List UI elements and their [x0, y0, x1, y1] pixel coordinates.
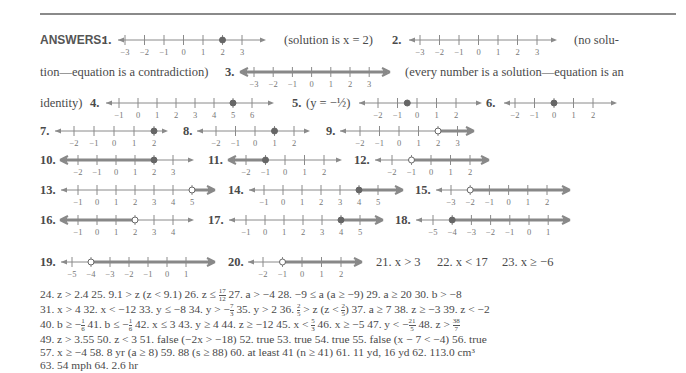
svg-text:0: 0 — [253, 138, 257, 148]
svg-text:−1: −1 — [259, 197, 268, 207]
top-rule — [40, 13, 676, 15]
answer-21: 21. x > 3 — [376, 255, 421, 269]
svg-text:4: 4 — [357, 197, 362, 207]
svg-text:−2: −2 — [269, 79, 278, 89]
item-label-20: 20. — [228, 255, 244, 269]
svg-text:3: 3 — [455, 138, 459, 148]
svg-text:−1: −1 — [485, 197, 494, 207]
item-label-2: 2. — [392, 33, 401, 47]
answer-line-40-48: 40. b ≥ −16 41. b ≤ −16 42. x ≤ 3 43. y … — [40, 318, 490, 333]
fraction-38-7: 387 — [453, 318, 460, 333]
item-label-16: 16. — [40, 213, 56, 227]
svg-text:1: 1 — [448, 167, 452, 177]
svg-text:1: 1 — [155, 110, 159, 120]
item-label-11: 11. — [208, 153, 223, 167]
svg-text:−1: −1 — [92, 167, 101, 177]
answer-2-note: (no solu- — [574, 33, 619, 47]
svg-text:0: 0 — [95, 197, 99, 207]
svg-text:5: 5 — [358, 227, 362, 237]
item-label-3: 3. — [225, 65, 234, 79]
svg-text:2: 2 — [319, 197, 323, 207]
svg-text:0: 0 — [112, 138, 116, 148]
svg-text:3: 3 — [152, 197, 156, 207]
item-label-4: 4. — [90, 96, 99, 110]
item-label-7: 7. — [40, 124, 49, 138]
svg-text:−4: −4 — [86, 269, 96, 279]
svg-text:1: 1 — [282, 227, 286, 237]
svg-text:3: 3 — [367, 79, 371, 89]
svg-text:−2: −2 — [211, 138, 220, 148]
number-line-8: −2−1012 — [196, 125, 311, 147]
svg-text:−1: −1 — [73, 197, 82, 207]
svg-text:1: 1 — [434, 110, 438, 120]
svg-text:1: 1 — [201, 47, 205, 57]
svg-text:0: 0 — [506, 197, 510, 207]
svg-text:−5: −5 — [67, 269, 76, 279]
svg-text:0: 0 — [429, 167, 433, 177]
svg-text:−5: −5 — [428, 227, 437, 237]
svg-text:3: 3 — [193, 110, 197, 120]
svg-text:5: 5 — [231, 110, 235, 120]
svg-text:−3: −3 — [446, 197, 455, 207]
svg-text:0: 0 — [397, 138, 401, 148]
svg-text:−1: −1 — [393, 110, 402, 120]
svg-text:−1: −1 — [89, 138, 98, 148]
svg-text:−1: −1 — [407, 167, 416, 177]
svg-text:−1: −1 — [261, 167, 270, 177]
number-line-17: −1012345 — [228, 214, 383, 236]
svg-text:2: 2 — [133, 197, 137, 207]
svg-text:6: 6 — [250, 110, 254, 120]
svg-text:−3: −3 — [120, 47, 129, 57]
svg-text:−2: −2 — [258, 269, 267, 279]
svg-text:2: 2 — [133, 227, 137, 237]
svg-text:−1: −1 — [114, 110, 123, 120]
svg-text:2: 2 — [515, 47, 519, 57]
svg-text:−2: −2 — [355, 138, 364, 148]
item-label-6: 6. — [486, 96, 495, 110]
svg-text:−2: −2 — [435, 47, 444, 57]
number-line-20: −2−1012 — [247, 256, 362, 278]
svg-text:2: 2 — [152, 167, 156, 177]
item-label-13: 13. — [40, 183, 56, 197]
svg-text:−2: −2 — [486, 227, 495, 237]
svg-text:0: 0 — [114, 167, 118, 177]
answers-heading: ANSWERS: — [40, 33, 105, 47]
svg-text:−2: −2 — [387, 167, 396, 177]
svg-text:5: 5 — [190, 197, 194, 207]
answer-line-57-62: 57. x ≥ −4 58. 8 yr (a ≥ 8) 59. 88 (s ≥ … — [40, 346, 490, 359]
number-line-3: −3−2−10123 — [240, 66, 390, 88]
number-line-11: −2−1012 — [228, 154, 343, 176]
svg-text:−2: −2 — [373, 110, 382, 120]
svg-text:−1: −1 — [241, 227, 250, 237]
number-line-5: −2−1012 — [358, 97, 483, 119]
number-line-13: −1012345 — [60, 184, 215, 206]
svg-text:4: 4 — [339, 227, 344, 237]
svg-text:−1: −1 — [278, 269, 287, 279]
number-line-7: −2−1012 — [54, 125, 169, 147]
svg-text:−2: −2 — [510, 110, 519, 120]
svg-text:1: 1 — [302, 167, 306, 177]
svg-text:1: 1 — [329, 79, 333, 89]
svg-text:3: 3 — [338, 197, 342, 207]
number-line-18: −5−4−3−2−101 — [415, 214, 570, 236]
fraction-21-5: 215 — [409, 318, 416, 333]
answer-lines-block: 24. z > 2.4 25. 9.1 > z (z < 9.1) 26. z … — [40, 288, 490, 371]
svg-text:−1: −1 — [231, 138, 240, 148]
svg-text:1: 1 — [114, 197, 118, 207]
svg-text:4: 4 — [171, 197, 176, 207]
number-line-12: −2−1012 — [374, 154, 489, 176]
answer-line-49-56: 49. z > 3.55 50. z < 3 51. false (−2x > … — [40, 333, 490, 346]
svg-text:4: 4 — [212, 110, 217, 120]
svg-text:3: 3 — [535, 47, 539, 57]
svg-text:−1: −1 — [143, 269, 152, 279]
svg-text:0: 0 — [165, 269, 169, 279]
number-line-16: −101234 — [60, 214, 195, 236]
number-line-6: −2−1012 — [503, 97, 618, 119]
svg-text:−2: −2 — [69, 138, 78, 148]
item-label-15: 15. — [415, 183, 431, 197]
svg-text:2: 2 — [292, 138, 296, 148]
svg-text:1: 1 — [416, 138, 420, 148]
svg-text:3: 3 — [152, 227, 156, 237]
number-line-2: −3−2−10123 — [408, 34, 558, 56]
svg-text:1: 1 — [114, 227, 118, 237]
